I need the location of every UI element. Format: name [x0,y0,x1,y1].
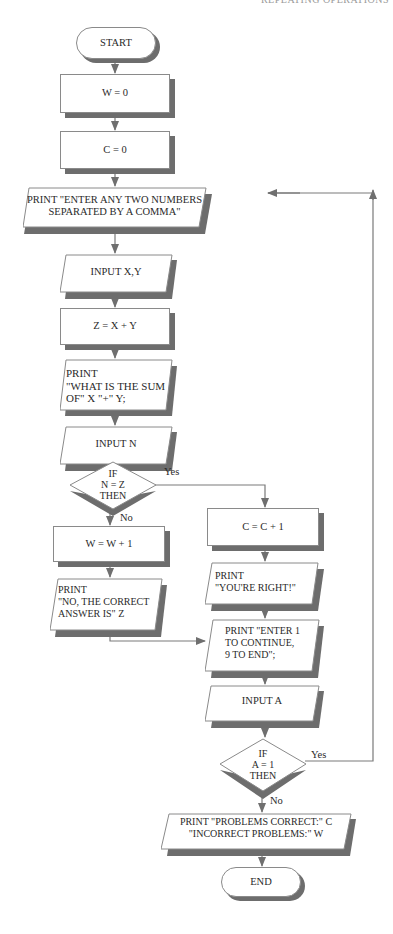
input-a: INPUT A [205,685,319,722]
decision-a-equals-1-label: IF A = 1 THEN [250,748,277,781]
start-label: START [100,37,132,50]
end-label: END [250,876,272,889]
init-c-process: C = 0 [60,131,170,169]
compute-z-label: Z = X + Y [93,320,137,333]
init-w-process: W = 0 [60,74,170,113]
print-continue-prompt-label: PRINT "ENTER 1 TO CONTINUE, 9 TO END"; [225,625,300,661]
compute-z-process: Z = X + Y [60,308,170,345]
input-xy: INPUT X,Y [60,254,172,294]
increment-w-label: W = W + 1 [86,538,133,551]
print-results-label: PRINT "PROBLEMS CORRECT:" C "INCORRECT P… [180,816,332,840]
print-question-label: PRINT "WHAT IS THE SUM OF" X "+" Y; [66,367,165,405]
print-right-answer: PRINT "YOU'RE RIGHT!" [205,562,319,606]
init-w-label: W = 0 [102,87,128,100]
print-enter-numbers: PRINT "ENTER ANY TWO NUMBERS SEPARATED B… [23,187,206,229]
print-enter-numbers-label: PRINT "ENTER ANY TWO NUMBERS SEPARATED B… [27,194,202,219]
input-xy-label: INPUT X,Y [90,266,141,279]
print-continue-prompt: PRINT "ENTER 1 TO CONTINUE, 9 TO END"; [205,619,319,672]
decision-nz-yes-label: Yes [164,466,179,477]
decision-nz-no-label: No [120,512,133,523]
increment-c-process: C = C + 1 [207,508,319,546]
print-right-answer-label: PRINT "YOU'RE RIGHT!" [215,570,296,594]
decision-a-no-label: No [270,795,283,806]
end-terminal: END [221,867,301,897]
start-terminal: START [76,27,156,59]
input-n-label: INPUT N [96,438,137,451]
input-n: INPUT N [60,426,172,466]
connectors [0,0,393,934]
print-wrong-answer: PRINT "NO, THE CORRECT ANSWER IS" Z [50,578,162,632]
decision-n-equals-z: IF N = Z THEN [68,461,158,513]
init-c-label: C = 0 [103,144,126,157]
print-results: PRINT "PROBLEMS CORRECT:" C "INCORRECT P… [161,813,351,849]
print-question: PRINT "WHAT IS THE SUM OF" X "+" Y; [60,359,172,419]
decision-n-equals-z-label: IF N = Z THEN [100,468,127,501]
decision-a-yes-label: Yes [311,749,326,760]
decision-a-equals-1: IF A = 1 THEN [218,738,308,796]
input-a-label: INPUT A [242,695,282,708]
increment-c-label: C = C + 1 [242,521,284,534]
increment-w-process: W = W + 1 [53,526,165,562]
print-wrong-answer-label: PRINT "NO, THE CORRECT ANSWER IS" Z [58,584,149,620]
